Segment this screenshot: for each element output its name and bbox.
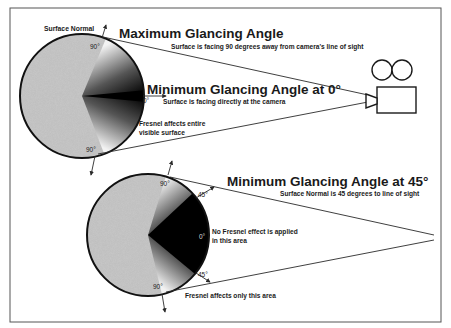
bottom-sphere	[87, 174, 209, 296]
fresnel-entire-note-line1: Fresnel affects entire	[139, 120, 206, 127]
title-minimum-glancing-angle-0: Minimum Glancing Angle at 0°	[147, 82, 341, 97]
bottom-angle-0: 0°	[199, 233, 206, 240]
bottom-angle-90-upper: 90°	[160, 180, 170, 187]
top-sphere	[20, 34, 146, 158]
subtitle-maximum-glancing-angle: Surface is facing 90 degrees away from c…	[171, 43, 364, 51]
top-angle-90-upper: 90°	[90, 43, 100, 50]
top-angle-90-lower: 90°	[86, 146, 96, 153]
bottom-angle-90-lower: 90°	[153, 283, 163, 290]
fresnel-only-note: Fresnel affects only this area	[185, 292, 276, 300]
no-fresnel-note-line1: No Fresnel effect is applied	[212, 228, 298, 236]
title-minimum-glancing-angle-45: Minimum Glancing Angle at 45°	[227, 174, 428, 189]
bottom-angle-45-upper: 45°	[198, 191, 208, 198]
title-maximum-glancing-angle: Maximum Glancing Angle	[119, 26, 284, 41]
no-fresnel-note-line2: in this area	[212, 237, 247, 244]
subtitle-minimum-glancing-angle-0: Surface is facing directly at the camera	[163, 98, 286, 106]
surface-normal-label: Surface Normal	[44, 25, 94, 32]
top-angle-0: 0°	[143, 97, 150, 104]
subtitle-minimum-glancing-angle-45: Surface Normal is 45 degrees to line of …	[280, 190, 420, 198]
fresnel-glancing-angle-diagram: Surface Normal 90° 90° 0° Maximum Glanci…	[0, 0, 451, 328]
fresnel-entire-note-line2: visible surface	[139, 129, 185, 136]
bottom-angle-45-lower: 45°	[198, 271, 208, 278]
